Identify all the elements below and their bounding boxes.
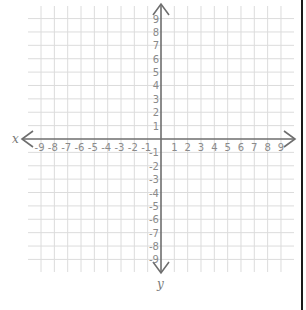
x-axis-label: x xyxy=(12,132,19,146)
x-tick-labels: -9-8-7-6-5-4-3-2-1123456789 xyxy=(35,142,285,153)
y-axis-label: y xyxy=(156,277,164,291)
y-tick-label: -3 xyxy=(149,174,159,185)
y-tick-label: 1 xyxy=(153,121,159,132)
x-tick-label: 2 xyxy=(184,142,190,153)
x-tick-label: 9 xyxy=(278,142,284,153)
x-tick-label: 5 xyxy=(224,142,230,153)
x-tick-label: 8 xyxy=(264,142,270,153)
x-tick-label: -4 xyxy=(101,142,111,153)
x-tick-label: 6 xyxy=(238,142,244,153)
y-tick-label: 4 xyxy=(153,80,159,91)
x-tick-label: -7 xyxy=(61,142,71,153)
y-tick-label: -9 xyxy=(149,254,159,265)
right-border xyxy=(301,0,303,310)
y-tick-label: -8 xyxy=(149,241,159,252)
y-tick-label: 8 xyxy=(153,27,159,38)
y-tick-label: -7 xyxy=(149,228,159,239)
y-tick-label: -5 xyxy=(149,201,159,212)
y-tick-label: 9 xyxy=(153,14,159,25)
y-tick-label: 5 xyxy=(153,67,159,78)
x-tick-label: 3 xyxy=(198,142,204,153)
x-tick-label: -9 xyxy=(35,142,45,153)
x-tick-label: -8 xyxy=(48,142,58,153)
y-tick-label: -2 xyxy=(149,161,159,172)
x-tick-label: 7 xyxy=(251,142,257,153)
x-tick-label: -5 xyxy=(88,142,98,153)
x-tick-label: -2 xyxy=(128,142,138,153)
y-tick-label: 3 xyxy=(153,94,159,105)
y-tick-label: -1 xyxy=(149,147,159,158)
y-tick-label: 7 xyxy=(153,40,159,51)
x-tick-label: -6 xyxy=(75,142,85,153)
x-tick-label: -3 xyxy=(115,142,125,153)
y-tick-label: 2 xyxy=(153,107,159,118)
y-tick-label: -6 xyxy=(149,214,159,225)
x-tick-label: 4 xyxy=(211,142,217,153)
y-tick-label: 6 xyxy=(153,54,159,65)
y-tick-label: -4 xyxy=(149,188,159,199)
x-tick-label: 1 xyxy=(171,142,177,153)
coordinate-plane: -9-8-7-6-5-4-3-2-1123456789 987654321-1-… xyxy=(0,0,306,310)
